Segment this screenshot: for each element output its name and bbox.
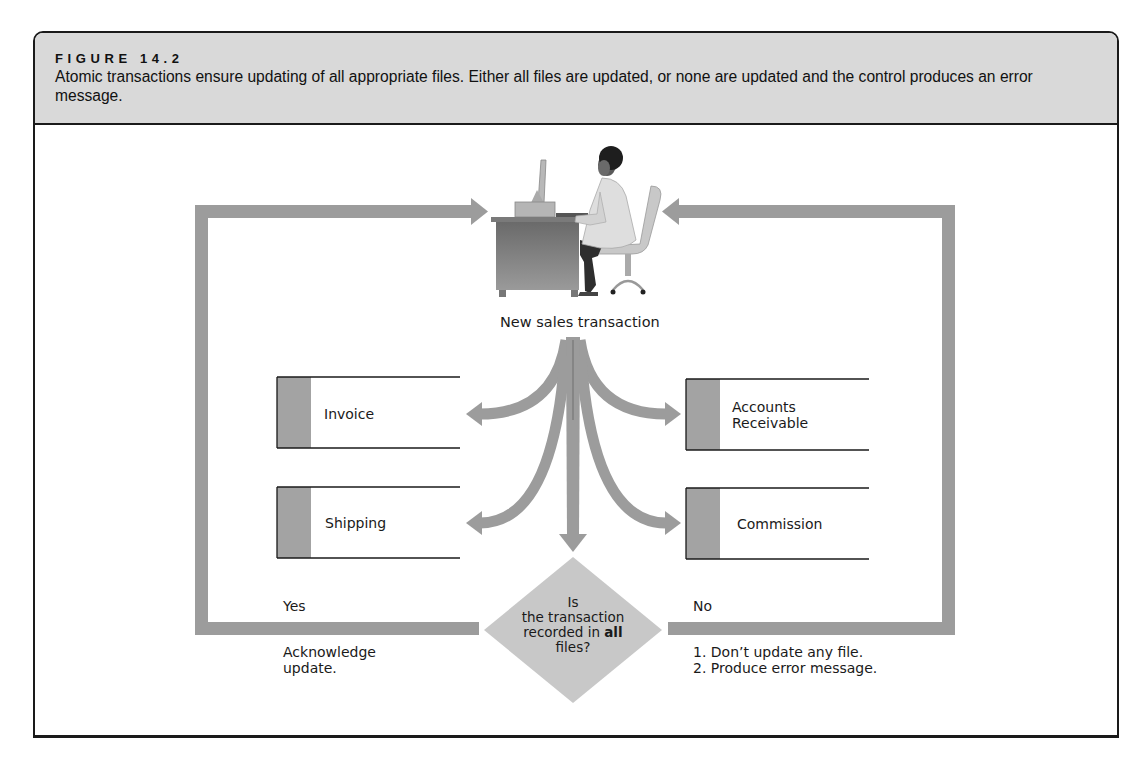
- decision-line4: files?: [503, 640, 643, 655]
- decision-line1: Is: [503, 595, 643, 610]
- no-action: 1. Don’t update any file. 2. Produce err…: [693, 644, 877, 676]
- yes-action: Acknowledge update.: [283, 644, 376, 676]
- file-label-accounts-receivable: Accounts Receivable: [732, 399, 808, 431]
- no-label: No: [693, 598, 712, 614]
- decision-line2: the transaction: [503, 610, 643, 625]
- no-action-line1: 1. Don’t update any file.: [693, 644, 877, 660]
- yes-action-line1: Acknowledge: [283, 644, 376, 660]
- decision-line3-prefix: recorded in: [523, 624, 604, 640]
- decision-line3: recorded in all: [503, 625, 643, 640]
- file-label-accounts-line1: Accounts: [732, 399, 808, 415]
- no-action-line2: 2. Produce error message.: [693, 660, 877, 676]
- source-label: New sales transaction: [500, 314, 660, 330]
- yes-label: Yes: [283, 598, 306, 614]
- decision-line3-bold: all: [604, 624, 622, 640]
- file-label-commission: Commission: [737, 516, 822, 532]
- decision-text: Is the transaction recorded in all files…: [503, 595, 643, 655]
- file-label-shipping: Shipping: [325, 515, 386, 531]
- yes-action-line2: update.: [283, 660, 376, 676]
- person-at-computer-desk-icon: [491, 146, 661, 297]
- file-label-accounts-line2: Receivable: [732, 415, 808, 431]
- file-label-invoice: Invoice: [324, 406, 374, 422]
